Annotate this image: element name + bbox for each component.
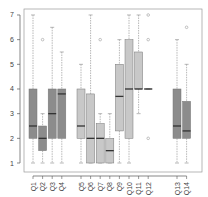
box-q7 (96, 38, 104, 163)
y-tick-label: 5 (10, 61, 14, 68)
x-tick-label: Q4 (58, 182, 66, 191)
box-q4 (58, 52, 66, 163)
outlier-point (147, 137, 150, 140)
outlier-point (185, 26, 188, 29)
box-q3 (48, 27, 56, 163)
y-tick-label: 1 (10, 160, 14, 167)
boxes (29, 14, 191, 163)
outlier-point (99, 38, 102, 41)
x-tick-label: Q9 (116, 182, 124, 191)
outlier-point (147, 14, 150, 17)
outlier-point (41, 38, 44, 41)
y-tick-label: 4 (10, 85, 14, 92)
x-tick-label: Q2 (39, 182, 47, 191)
x-axis-labels: Q1Q2Q3Q4Q5Q6Q7Q8Q9Q10Q11Q12Q13Q14 (30, 176, 192, 195)
x-tick-label: Q11 (135, 182, 143, 195)
x-tick-label: Q7 (97, 182, 105, 191)
x-tick-label: Q6 (87, 182, 95, 191)
x-tick-label: Q5 (78, 182, 86, 191)
boxplot-chart: 1234567 Q1Q2Q3Q4Q5Q6Q7Q8Q9Q10Q11Q12Q13Q1… (0, 0, 208, 197)
y-tick-label: 6 (10, 36, 14, 43)
y-tick-label: 3 (10, 110, 14, 117)
y-tick-label: 7 (10, 11, 14, 18)
box-q13 (173, 40, 181, 163)
box-q8 (106, 114, 114, 163)
x-tick-label: Q14 (183, 182, 191, 195)
box-q5 (77, 64, 85, 163)
box-q14 (183, 26, 191, 163)
x-tick-label: Q3 (49, 182, 57, 191)
box-q2 (39, 38, 47, 163)
x-tick-label: Q8 (106, 182, 114, 191)
x-tick-label: Q10 (126, 182, 134, 195)
outlier-point (147, 38, 150, 41)
box-q10 (125, 15, 133, 163)
x-tick-label: Q1 (30, 182, 38, 191)
box-q12 (144, 14, 152, 140)
box-q1 (29, 15, 37, 163)
y-tick-label: 2 (10, 135, 14, 142)
box-q9 (115, 40, 123, 163)
box-q11 (135, 15, 143, 114)
x-tick-label: Q13 (174, 182, 182, 195)
box-q6 (87, 15, 95, 163)
x-tick-label: Q12 (145, 182, 153, 195)
